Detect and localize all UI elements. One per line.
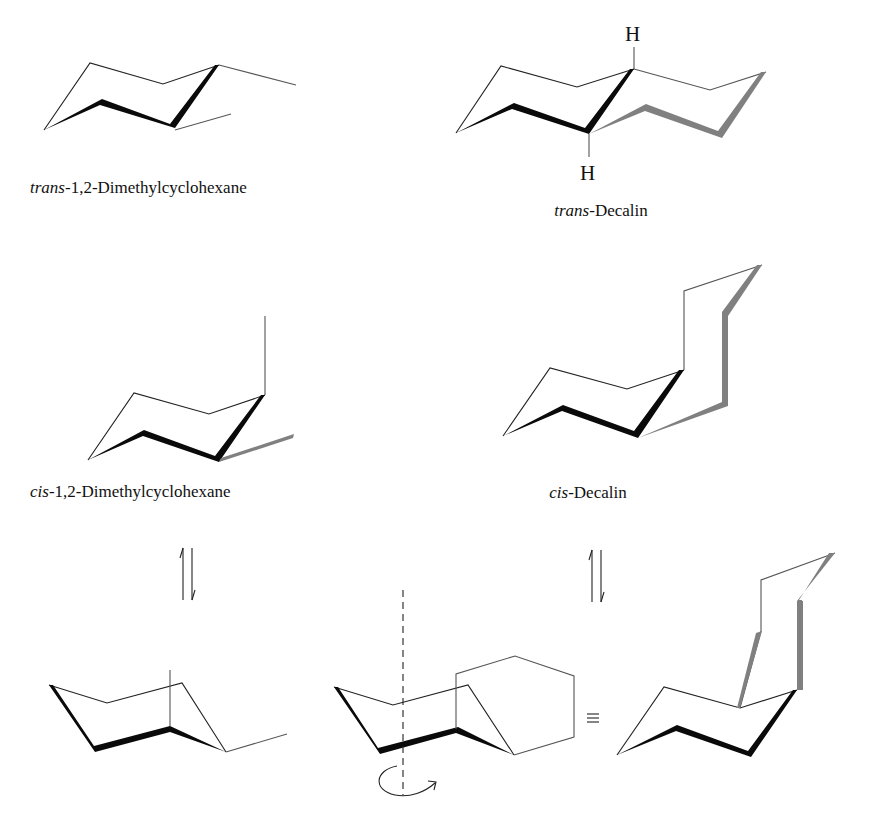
equilibrium-arrows-left (180, 548, 195, 600)
hydrogen-atom-bottom: H (580, 161, 595, 185)
equivalent-sign (587, 714, 599, 722)
trans-dimethylcyclohexane-label: trans-1,2-Dimethylcyclohexane (30, 178, 247, 197)
trans-decalin-structure: H H (456, 22, 766, 185)
hydrogen-atom-top: H (625, 22, 640, 46)
trans-decalin-label: trans-Decalin (554, 201, 648, 220)
cis-dimethylcyclohexane-structure (88, 316, 294, 462)
trans-dimethylcyclohexane-structure (44, 63, 296, 130)
cis-dimethylcyclohexane-flipped-structure (49, 670, 287, 752)
cis-decalin-rotation-structure (334, 590, 599, 796)
rotation-arrow-icon (379, 766, 435, 796)
conformation-diagram: trans-1,2-Dimethylcyclohexane H H trans-… (0, 0, 879, 828)
cis-dimethylcyclohexane-label: cis-1,2-Dimethylcyclohexane (30, 482, 231, 501)
cis-decalin-flipped-structure (617, 553, 835, 757)
cis-decalin-label: cis-Decalin (549, 483, 627, 502)
cis-decalin-structure (503, 265, 762, 438)
equilibrium-arrows-right (589, 550, 604, 602)
